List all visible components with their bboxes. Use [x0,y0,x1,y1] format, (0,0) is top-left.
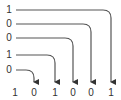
output-bit-1: 1 [11,88,19,98]
input-bit-3: 0 [5,33,13,43]
bit-reversal-diagram: 1 0 0 1 0 1 0 1 0 0 1 [0,0,121,100]
arrow-3 [16,38,73,82]
input-bit-1: 1 [5,5,13,15]
arrow-5 [16,70,34,82]
arrows [0,0,121,100]
input-bit-2: 0 [5,19,13,29]
input-bit-5: 0 [5,65,13,75]
input-bit-4: 1 [5,50,13,60]
output-bit-5: 0 [87,88,95,98]
output-bit-6: 1 [107,88,115,98]
arrow-2 [16,24,91,82]
output-bit-3: 1 [51,88,59,98]
output-bit-4: 0 [69,88,77,98]
arrow-4 [16,55,55,82]
output-bit-2: 0 [30,88,38,98]
